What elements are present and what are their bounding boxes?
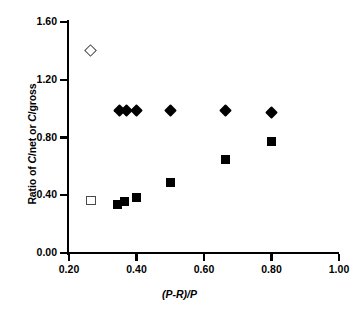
x-axis-title-p2: P xyxy=(190,288,197,300)
x-axis-tick-label: 0.20 xyxy=(39,264,99,275)
y-axis-tick xyxy=(60,194,67,196)
x-axis-tick-label: 1.00 xyxy=(309,264,359,275)
data-point-diamond-filled xyxy=(220,104,233,117)
x-axis-tick-label: 0.40 xyxy=(107,264,167,275)
y-axis-tick-label: 0.80 xyxy=(0,132,57,143)
y-axis-tick-label: 1.60 xyxy=(0,16,57,27)
x-axis-tick xyxy=(338,254,340,261)
data-point-square-filled xyxy=(221,155,230,164)
x-axis-tick xyxy=(270,254,272,261)
y-axis-tick-label: 1.20 xyxy=(0,74,57,85)
y-axis-tick-label: 0.00 xyxy=(0,247,57,258)
y-axis-title-suffix: /gross xyxy=(26,83,38,114)
y-axis-title-c-gross: C xyxy=(26,114,38,121)
data-point-diamond-filled xyxy=(130,104,143,117)
y-axis-tick xyxy=(60,252,67,254)
y-axis-title-c-net: C xyxy=(26,156,38,163)
plot-area xyxy=(69,22,339,253)
data-point-square-filled xyxy=(120,197,129,206)
data-point-square-open xyxy=(86,196,96,206)
y-axis-tick xyxy=(60,21,67,23)
data-point-diamond-open xyxy=(85,45,98,58)
x-axis-tick xyxy=(68,254,70,261)
data-point-square-filled xyxy=(132,193,141,202)
scatter-chart-figure: Ratio of C/net or C/gross (P-R)/P 0.000.… xyxy=(0,0,359,314)
x-axis-tick xyxy=(203,254,205,261)
x-axis-tick-label: 0.80 xyxy=(242,264,302,275)
y-axis-tick-label: 0.40 xyxy=(0,189,57,200)
x-axis-tick xyxy=(135,254,137,261)
x-axis-title-r: R xyxy=(176,288,184,300)
y-axis-tick xyxy=(60,79,67,81)
x-axis-tick-label: 0.60 xyxy=(174,264,234,275)
data-point-diamond-filled xyxy=(265,106,278,119)
data-point-square-filled xyxy=(267,137,276,146)
y-axis-tick xyxy=(60,136,67,138)
x-axis-title: (P-R)/P xyxy=(0,288,359,300)
data-point-square-filled xyxy=(166,178,175,187)
data-point-diamond-filled xyxy=(164,104,177,117)
